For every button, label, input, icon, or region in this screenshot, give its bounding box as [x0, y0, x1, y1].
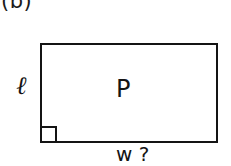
subfigure-caption: (b)	[1, 0, 32, 13]
right-angle-marker-icon	[40, 126, 57, 143]
figure-canvas: (b) P ℓ w ?	[0, 0, 231, 166]
rectangle-height-label: ℓ	[16, 72, 26, 100]
rectangle-area-label: P	[116, 76, 130, 102]
rectangle-width-label: w ?	[116, 143, 149, 166]
